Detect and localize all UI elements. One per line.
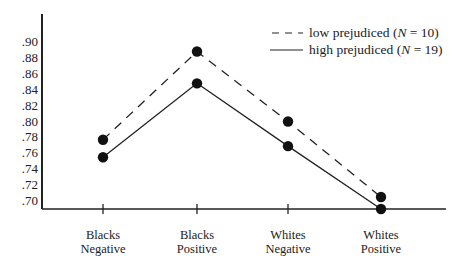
y-tick-label: .82	[0, 99, 38, 113]
data-point-marker	[376, 204, 386, 214]
x-category-label: BlacksPositive	[152, 228, 242, 256]
data-point-marker	[98, 152, 108, 162]
data-point-marker	[98, 135, 108, 145]
x-category-label: WhitesPositive	[336, 228, 426, 256]
y-tick-label: .78	[0, 130, 38, 144]
data-point-marker	[283, 141, 293, 151]
data-point-marker	[192, 78, 202, 88]
y-tick-label: .70	[0, 194, 38, 208]
x-category-label: WhitesNegative	[243, 228, 333, 256]
high-prejudiced-line	[103, 83, 381, 209]
x-category-label: BlacksNegative	[58, 228, 148, 256]
y-tick-label: .88	[0, 51, 38, 65]
y-tick-label: .86	[0, 67, 38, 81]
y-tick-label: .76	[0, 146, 38, 160]
y-tick-label: .74	[0, 162, 38, 176]
legend-entry-low-prejudiced: low prejudiced (N = 10)	[309, 25, 439, 41]
y-tick-label: .72	[0, 178, 38, 192]
data-point-marker	[192, 46, 202, 56]
data-point-marker	[376, 192, 386, 202]
y-tick-label: .90	[0, 35, 38, 49]
y-tick-label: .80	[0, 115, 38, 129]
legend-entry-high-prejudiced: high prejudiced (N = 19)	[309, 42, 443, 58]
y-tick-label: .84	[0, 83, 38, 97]
line-chart: .90.88.86.84.82.80.78.76.74.72.70 Blacks…	[0, 0, 461, 262]
data-point-marker	[283, 116, 293, 126]
